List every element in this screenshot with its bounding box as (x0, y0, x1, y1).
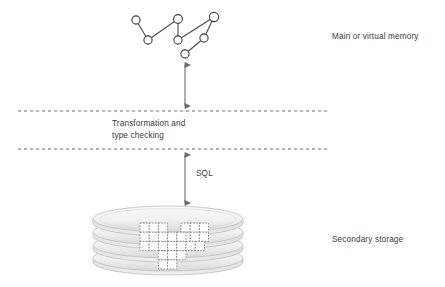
label-secondary-storage: Secondary storage (332, 234, 403, 245)
graph-node (132, 16, 140, 24)
object-graph-graphic (132, 12, 219, 58)
label-transformation-and-type-checking: Transformation and type checking (112, 118, 185, 141)
label-main-or-virtual-memory: Main or virtual memory (332, 31, 419, 42)
graph-node (209, 12, 218, 21)
graph-node (174, 36, 182, 44)
graph-node (174, 15, 183, 24)
diagram-canvas: Main or virtual memory Transformation an… (0, 0, 445, 287)
label-sql: SQL (196, 168, 213, 179)
graph-node (181, 50, 189, 58)
disk-platter (93, 206, 243, 236)
graph-node (144, 36, 152, 44)
graph-node (200, 34, 208, 42)
